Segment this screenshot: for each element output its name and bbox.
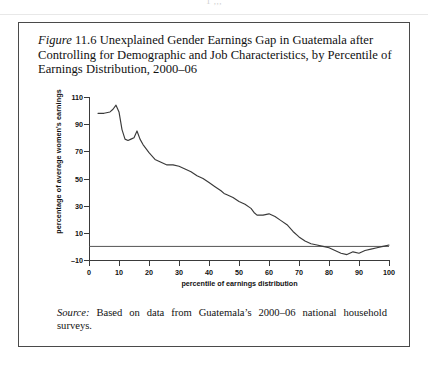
figure-label: Figure <box>38 33 72 47</box>
x-axis-tick <box>299 261 300 266</box>
data-series-line <box>98 105 389 254</box>
x-axis-tick-label: 90 <box>346 268 372 277</box>
x-axis-tick-label: 60 <box>256 268 282 277</box>
running-head: 1 ,,, <box>0 0 428 6</box>
source-text: Based on data from Guatemala’s 2000–06 n… <box>57 307 387 331</box>
chart-plot-area <box>89 97 389 260</box>
x-axis-tick-label: 0 <box>76 268 102 277</box>
x-axis-tick <box>359 261 360 266</box>
source-note: Source: Based on data from Guatemala’s 2… <box>57 306 387 332</box>
y-axis-label: percentage of average women's earnings <box>54 82 63 242</box>
figure-number: 11.6 <box>75 33 97 47</box>
x-axis-tick-label: 20 <box>136 268 162 277</box>
x-axis-tick-label: 40 <box>196 268 222 277</box>
header-rule <box>0 14 428 15</box>
y-axis-tick-label: 90 <box>49 120 83 129</box>
x-axis-tick <box>389 261 390 266</box>
x-axis-tick <box>329 261 330 266</box>
x-axis-tick-label: 30 <box>166 268 192 277</box>
x-axis-tick <box>269 261 270 266</box>
y-axis-tick-label: 30 <box>49 202 83 211</box>
y-axis-tick-label: –10 <box>49 256 83 265</box>
figure-box: Figure 11.6 Unexplained Gender Earnings … <box>18 22 410 347</box>
x-axis-tick <box>239 261 240 266</box>
x-axis-tick <box>119 261 120 266</box>
x-axis-tick <box>89 261 90 266</box>
x-axis-tick-label: 100 <box>376 268 402 277</box>
y-axis-tick-label: 110 <box>49 93 83 102</box>
y-axis-tick-label: 50 <box>49 175 83 184</box>
x-axis-tick-label: 50 <box>226 268 252 277</box>
source-label: Source: <box>57 307 90 318</box>
x-axis-tick-label: 10 <box>106 268 132 277</box>
x-axis-tick-label: 80 <box>316 268 342 277</box>
x-axis-tick <box>179 261 180 266</box>
x-axis-tick <box>209 261 210 266</box>
x-axis-label: percentile of earnings distribution <box>89 279 390 288</box>
x-axis-tick-label: 70 <box>286 268 312 277</box>
chart: percentage of average women's earnings 1… <box>29 91 401 291</box>
y-axis-tick-label: 10 <box>49 229 83 238</box>
y-axis-tick-label: 70 <box>49 147 83 156</box>
x-axis-tick <box>149 261 150 266</box>
figure-caption: Figure 11.6 Unexplained Gender Earnings … <box>38 33 394 77</box>
